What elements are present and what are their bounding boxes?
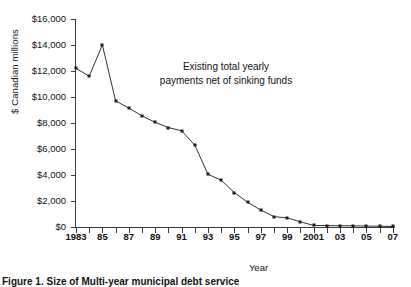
data-point-marker xyxy=(180,129,183,132)
data-point-marker xyxy=(365,225,368,228)
y-tick-label: $8,000 xyxy=(2,118,66,128)
y-tick-label: $16,000 xyxy=(2,14,66,24)
x-tick-label: 93 xyxy=(203,232,214,242)
figure-caption: Figure 1. Size of Multi-year municipal d… xyxy=(2,276,411,287)
data-point-marker xyxy=(127,107,130,110)
data-point-marker xyxy=(391,225,394,228)
y-tick-label: $4,000 xyxy=(2,170,66,180)
x-tick-label: 07 xyxy=(388,232,399,242)
x-tick-label: 91 xyxy=(176,232,187,242)
x-tick-label: 03 xyxy=(335,232,346,242)
data-point-marker xyxy=(352,224,355,227)
data-point-marker xyxy=(378,225,381,228)
x-tick-label: 1983 xyxy=(65,232,86,242)
series-line xyxy=(75,14,395,233)
x-axis-tick-labels: 198385878991939597992001030507 xyxy=(0,232,411,248)
data-point-marker xyxy=(141,114,144,117)
data-point-marker xyxy=(259,209,262,212)
x-tick-label: 87 xyxy=(124,232,135,242)
x-tick-label: 97 xyxy=(256,232,267,242)
annotation-line-2: payments net of sinking funds xyxy=(126,74,326,88)
y-tick-label: $6,000 xyxy=(2,144,66,154)
data-point-marker xyxy=(114,99,117,102)
annotation-line-1: Existing total yearly xyxy=(126,60,326,74)
x-tick-label: 05 xyxy=(361,232,372,242)
data-point-marker xyxy=(167,126,170,129)
y-tick-label: $14,000 xyxy=(2,40,66,50)
x-tick-label: 99 xyxy=(282,232,293,242)
data-point-marker xyxy=(101,44,104,47)
plot-area xyxy=(75,14,395,233)
chart-annotation: Existing total yearly payments net of si… xyxy=(126,60,326,88)
data-point-marker xyxy=(325,224,328,227)
data-point-marker xyxy=(207,173,210,176)
data-point-marker xyxy=(75,67,78,70)
data-point-marker xyxy=(233,191,236,194)
data-point-marker xyxy=(299,220,302,223)
data-point-marker xyxy=(286,216,289,219)
x-axis-title: Year xyxy=(0,262,411,273)
data-point-marker xyxy=(154,121,157,124)
figure-caption-text: Size of Multi-year municipal debt servic… xyxy=(46,276,239,287)
series-layer xyxy=(75,14,395,233)
data-point-marker xyxy=(312,224,315,227)
data-point-marker xyxy=(88,75,91,78)
data-point-marker xyxy=(193,144,196,147)
x-tick-label: 95 xyxy=(229,232,240,242)
data-point-marker xyxy=(273,215,276,218)
y-tick-label: $0 xyxy=(2,222,66,232)
x-tick-label: 89 xyxy=(150,232,161,242)
x-tick-label: 2001 xyxy=(303,232,324,242)
y-tick-label: $10,000 xyxy=(2,92,66,102)
data-point-marker xyxy=(220,179,223,182)
y-tick-label: $2,000 xyxy=(2,196,66,206)
figure-caption-label: Figure 1. xyxy=(2,276,44,287)
x-axis-title-text: Year xyxy=(249,262,268,273)
x-tick-label: 85 xyxy=(97,232,108,242)
data-point-marker xyxy=(339,224,342,227)
y-tick-label: $12,000 xyxy=(2,66,66,76)
data-point-marker xyxy=(246,201,249,204)
